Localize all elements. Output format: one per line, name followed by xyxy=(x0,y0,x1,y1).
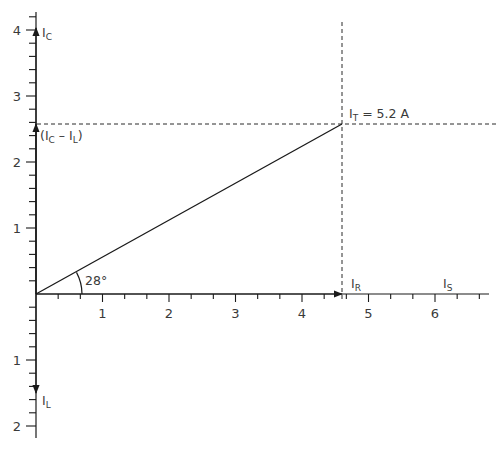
it-resultant-line xyxy=(36,124,342,294)
x-axis-tick-labels: 123456 xyxy=(98,306,439,321)
y-axis-ticks xyxy=(26,17,36,426)
x-tick-label: 4 xyxy=(298,306,306,321)
phasor-diagram: 123456 123412 28° IC (IC – IL) IL IR IS … xyxy=(0,0,501,459)
y-axis-tick-labels: 123412 xyxy=(13,23,21,434)
is-label: IS xyxy=(443,276,453,293)
x-axis-ticks xyxy=(58,294,479,302)
it-label: IT = 5.2 A xyxy=(349,106,409,123)
x-tick-label: 3 xyxy=(231,306,239,321)
y-tick-label: 2 xyxy=(13,155,21,170)
y-tick-label: 4 xyxy=(13,23,21,38)
x-tick-label: 5 xyxy=(364,306,372,321)
x-tick-label: 1 xyxy=(98,306,106,321)
ic-minus-il-label: (IC – IL) xyxy=(40,128,83,145)
ic-label: IC xyxy=(42,25,52,42)
il-label: IL xyxy=(42,393,51,410)
angle-arc xyxy=(77,272,83,294)
y-neg-tick-label: 1 xyxy=(13,353,21,368)
ir-label: IR xyxy=(351,276,361,293)
x-tick-label: 6 xyxy=(431,306,439,321)
y-tick-label: 3 xyxy=(13,89,21,104)
y-tick-label: 1 xyxy=(13,221,21,236)
y-neg-tick-label: 2 xyxy=(13,419,21,434)
x-tick-label: 2 xyxy=(165,306,173,321)
angle-label: 28° xyxy=(85,273,107,288)
